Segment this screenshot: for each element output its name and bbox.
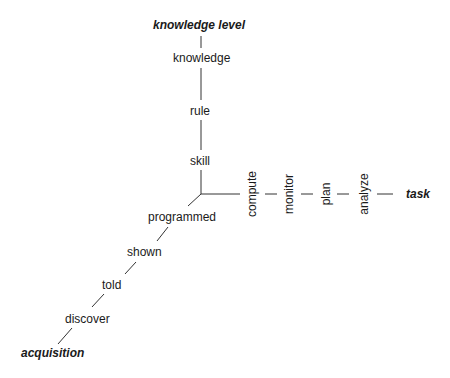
diagonal-tick-shown: shown (127, 245, 162, 259)
vertical-tick-skill: skill (190, 154, 210, 168)
horizontal-tick-plan: plan (319, 177, 333, 211)
horizontal-axis-title: task (406, 187, 430, 201)
vertical-tick-rule: rule (190, 104, 210, 118)
horizontal-tick-monitor: monitor (282, 172, 296, 216)
diagonal-tick-discover: discover (65, 312, 110, 326)
horizontal-tick-compute: compute (245, 171, 259, 217)
diagonal-tick-told: told (102, 278, 121, 292)
diagonal-tick-programmed: programmed (148, 210, 216, 224)
vertical-tick-knowledge: knowledge (173, 51, 230, 65)
diagonal-axis-title: acquisition (21, 346, 84, 360)
vertical-axis-title: knowledge level (153, 18, 245, 32)
horizontal-tick-analyze: analyze (357, 171, 371, 217)
